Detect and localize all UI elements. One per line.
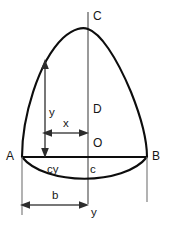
label-dimension-x: x (63, 117, 69, 129)
label-point-d: D (93, 102, 102, 116)
label-point-c: C (93, 9, 102, 23)
label-point-a: A (6, 149, 14, 163)
geometry-diagram: C D O A B y x cy c b y (0, 0, 170, 227)
parabolic-segment-figure: C D O A B y x cy c b y (0, 0, 170, 227)
arrowhead-x-left (42, 129, 52, 137)
arrowhead-y-up (41, 59, 49, 69)
lower-arc (22, 157, 147, 179)
label-dimension-y-vertical: y (49, 106, 55, 118)
label-point-b: B (152, 149, 160, 163)
parabola-curve (22, 28, 147, 157)
label-dimension-y-bottom: y (91, 206, 97, 218)
label-point-o: O (93, 136, 102, 150)
label-dimension-b: b (52, 189, 58, 201)
label-dimension-cy: cy (47, 163, 59, 175)
label-dimension-c: c (90, 163, 96, 175)
